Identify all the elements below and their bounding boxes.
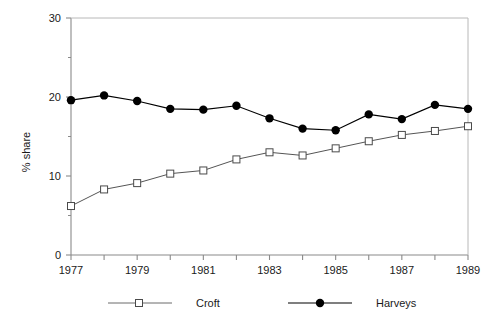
data-point-filled-circle [298, 124, 306, 132]
data-point-open-square [332, 145, 339, 152]
legend-marker-open-square-icon [136, 300, 143, 307]
x-tick-label: 1977 [59, 264, 83, 276]
data-point-filled-circle [431, 101, 439, 109]
data-point-filled-circle [199, 105, 207, 113]
data-point-open-square [167, 170, 174, 177]
x-tick-label: 1987 [390, 264, 414, 276]
y-tick-label: 10 [49, 170, 61, 182]
chart-legend: Croft Harveys [108, 297, 417, 309]
legend-item-harveys[interactable]: Harveys [288, 297, 417, 309]
data-point-filled-circle [232, 101, 240, 109]
series-croft [68, 123, 472, 210]
data-point-open-square [101, 186, 108, 193]
data-point-open-square [299, 152, 306, 159]
data-point-filled-circle [133, 97, 141, 105]
data-point-filled-circle [464, 105, 472, 113]
x-tick-label: 1989 [456, 264, 480, 276]
x-tick-group: 1977197919811983198519871989 [59, 255, 480, 276]
chart-container: 0102030 1977197919811983198519871989 % s… [0, 0, 492, 324]
x-tick-label: 1979 [125, 264, 149, 276]
series-line [71, 95, 468, 130]
legend-item-croft[interactable]: Croft [108, 297, 220, 309]
y-axis-title: % share [20, 132, 32, 172]
y-tick-label: 20 [49, 91, 61, 103]
y-tick-group: 0102030 [49, 12, 71, 261]
y-tick-label: 30 [49, 12, 61, 24]
line-chart: 0102030 1977197919811983198519871989 % s… [0, 0, 492, 324]
data-point-open-square [200, 167, 207, 174]
data-point-filled-circle [67, 96, 75, 104]
data-point-filled-circle [331, 126, 339, 134]
series-harveys [67, 91, 472, 134]
data-point-filled-circle [365, 110, 373, 118]
data-point-open-square [266, 149, 273, 156]
y-tick-label: 0 [55, 249, 61, 261]
x-tick-label: 1985 [323, 264, 347, 276]
legend-label-harveys: Harveys [376, 297, 417, 309]
legend-label-croft: Croft [196, 297, 220, 309]
data-point-filled-circle [398, 115, 406, 123]
data-point-open-square [431, 127, 438, 134]
series-line [71, 126, 468, 206]
data-point-open-square [465, 123, 472, 130]
data-point-filled-circle [265, 114, 273, 122]
data-point-filled-circle [166, 105, 174, 113]
data-point-open-square [134, 180, 141, 187]
data-point-filled-circle [100, 91, 108, 99]
data-point-open-square [68, 203, 75, 210]
x-tick-label: 1983 [257, 264, 281, 276]
legend-marker-filled-circle-icon [316, 299, 324, 307]
axes-group [71, 18, 468, 255]
data-point-open-square [398, 131, 405, 138]
data-point-open-square [233, 156, 240, 163]
data-point-open-square [365, 138, 372, 145]
x-tick-label: 1981 [191, 264, 215, 276]
